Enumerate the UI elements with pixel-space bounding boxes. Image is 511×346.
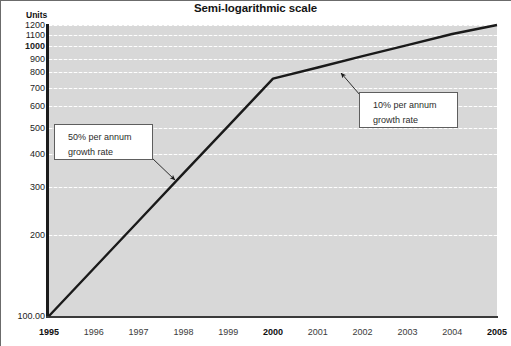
annotation-line-2: growth rate [68, 145, 152, 160]
annotation-callout-growth-10: 10% per annum growth rate [359, 92, 458, 128]
annotation-line-1: 50% per annum [68, 130, 152, 145]
annotation-line-2: growth rate [373, 113, 457, 128]
annotation-callout-growth-50: 50% per annum growth rate [54, 124, 153, 160]
annotation-arrow-growth-10 [341, 73, 360, 95]
annotation-line-1: 10% per annum [373, 98, 457, 113]
annotation-arrow-layer [0, 0, 511, 346]
chart-figure: Semi-logarithmic scale Units 100.0020030… [0, 0, 511, 346]
annotation-arrow-growth-50 [152, 158, 175, 180]
